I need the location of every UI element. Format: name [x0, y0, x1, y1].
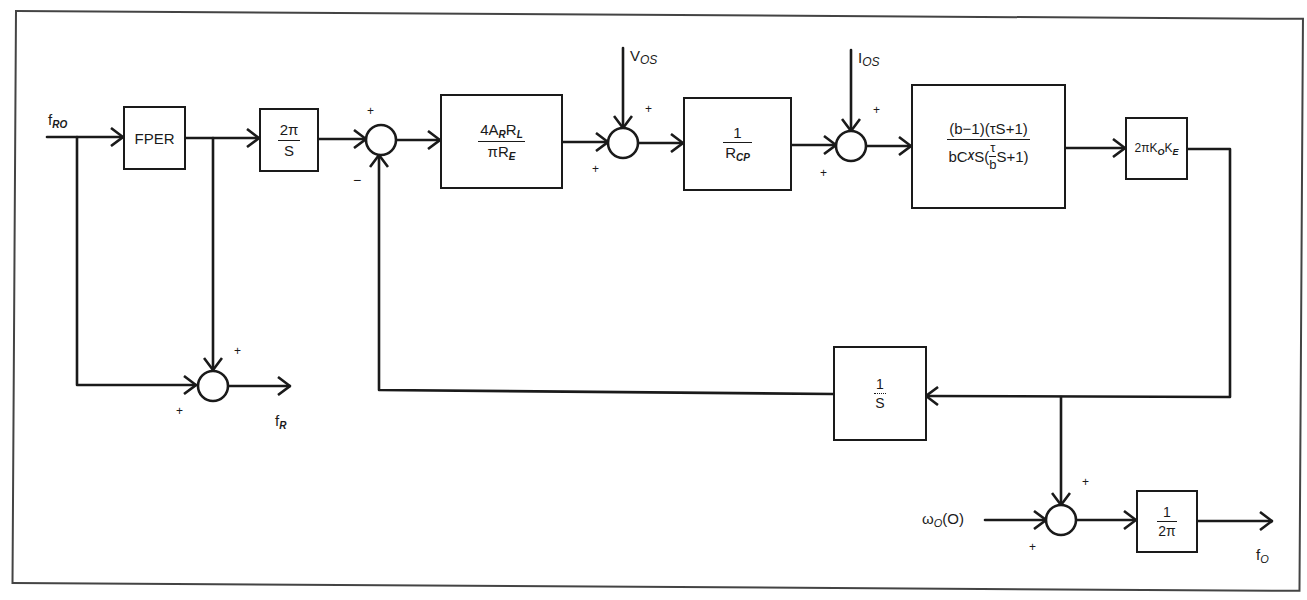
subscript: RO — [52, 119, 67, 130]
denominator: S — [875, 394, 884, 411]
denominator: 2π — [1158, 522, 1175, 539]
sign-vos-top: + — [645, 102, 652, 116]
denominator: bCXS( τ b S+1) — [948, 140, 1028, 173]
fper-label: FPER — [134, 130, 174, 147]
term: πR — [488, 143, 509, 160]
term: 2πK — [1134, 141, 1157, 155]
numerator: (b−1)(τS+1) — [947, 120, 1029, 139]
numerator: 1 — [1157, 504, 1177, 522]
signal-lines — [0, 0, 1307, 600]
sign-ios-top: + — [873, 103, 880, 117]
fraction-inverse-2pi: 1 2π — [1157, 504, 1177, 539]
block-fper: FPER — [123, 106, 186, 170]
denominator: πRE — [488, 142, 516, 163]
subscript: O — [1260, 553, 1269, 565]
summing-junction-ios — [836, 131, 866, 161]
numerator: 4ARRL — [478, 121, 525, 143]
term: S( — [974, 148, 989, 165]
term: bC — [948, 148, 967, 165]
numerator: 1 — [874, 376, 886, 394]
label-output-fo: fO — [1256, 546, 1269, 565]
term: V — [630, 47, 640, 64]
summing-junction-vos — [608, 128, 638, 158]
subscript: R — [279, 420, 286, 431]
subscript: OS — [640, 53, 657, 67]
subscript: X — [968, 151, 975, 163]
subscript: R — [499, 129, 506, 140]
term: S+1) — [996, 148, 1028, 165]
term: R — [506, 121, 517, 138]
summing-junction-out — [1046, 505, 1076, 535]
block-inverse-2pi: 1 2π — [1136, 490, 1198, 553]
block-integrator: 1 S — [833, 346, 927, 441]
fraction-loop-filter: (b−1)(τS+1) bCXS( τ b S+1) — [947, 120, 1029, 172]
subscript: E — [1172, 147, 1178, 157]
subscript: L — [517, 129, 523, 140]
term: ω — [922, 510, 934, 527]
denominator: RCP — [725, 143, 750, 164]
vco-gain-label: 2πKOKE — [1134, 141, 1178, 157]
sign-main-plus: + — [367, 104, 374, 118]
summing-junction-main — [366, 125, 396, 155]
fraction-integrator: 1 S — [874, 376, 886, 411]
term: R — [725, 144, 736, 161]
sign-fr-left: + — [176, 404, 183, 418]
numerator: τ — [989, 141, 996, 157]
subscript: E — [509, 151, 516, 162]
line-fro-to-fr-sum — [77, 137, 196, 385]
term: 4A — [480, 121, 498, 138]
subscript: CP — [736, 152, 750, 163]
fraction-gain: 4ARRL πRE — [478, 121, 525, 163]
inner-fraction: τ b — [989, 141, 996, 173]
block-vco-gain: 2πKOKE — [1125, 117, 1188, 180]
sign-ios-left: + — [820, 166, 827, 180]
sign-vos-left: + — [592, 162, 599, 176]
sign-main-minus: − — [353, 172, 361, 188]
block-inverse-rcp: 1 RCP — [683, 97, 792, 191]
summing-junction-fr — [198, 371, 228, 401]
denominator: b — [989, 157, 996, 173]
label-input-omega: ωO(O) — [922, 510, 964, 529]
block-loop-filter: (b−1)(τS+1) bCXS( τ b S+1) — [911, 84, 1066, 209]
subscript: OS — [862, 55, 879, 69]
numerator: 1 — [723, 124, 751, 143]
label-input-vos: VOS — [630, 47, 657, 67]
fraction-2pi-over-s: 2π S — [278, 121, 301, 159]
label-input-ios: IOS — [858, 49, 880, 69]
numerator: 2π — [278, 121, 301, 140]
sign-out-left: + — [1029, 540, 1036, 554]
subscript: O — [934, 517, 943, 529]
label-output-fr: fR — [275, 412, 286, 431]
block-gain-ar-rl: 4ARRL πRE — [440, 94, 563, 189]
block-2pi-over-s: 2π S — [259, 108, 319, 172]
label-input-fro: fRO — [48, 111, 67, 130]
sign-out-top: + — [1082, 475, 1089, 489]
term: (O) — [942, 510, 964, 527]
fraction-inverse-rcp: 1 RCP — [723, 124, 751, 164]
denominator: S — [284, 141, 294, 159]
sign-fr-top: + — [234, 344, 241, 358]
